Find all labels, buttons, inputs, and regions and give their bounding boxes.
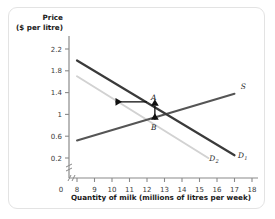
curve-label-D1: D1 bbox=[237, 151, 248, 161]
y-axis-title-line1: Price bbox=[43, 13, 64, 22]
curve-D2[interactable] bbox=[77, 76, 208, 158]
curve-label-D2: D2 bbox=[208, 154, 219, 164]
x-axis-title: Quantity of milk (millions of litres per… bbox=[71, 193, 251, 202]
y-axis-title-line2: ($ per litre) bbox=[16, 23, 63, 32]
curve-label-sub-D1: 1 bbox=[244, 155, 247, 161]
point-B: B bbox=[150, 123, 157, 132]
curve-label-sub-D2: 2 bbox=[214, 158, 218, 164]
x-origin-label: 0 bbox=[59, 186, 63, 194]
y-tick-label-0.6: 0.6 bbox=[51, 133, 63, 141]
y-tick-label-1.4: 1.4 bbox=[51, 89, 63, 97]
point-A: A bbox=[150, 93, 157, 102]
figure-root: 0.20.611.41.82.2891011121314151617180Pri… bbox=[0, 0, 275, 219]
curve-D1[interactable] bbox=[77, 60, 235, 155]
y-tick-label-0.2: 0.2 bbox=[51, 155, 62, 163]
supply-demand-chart: 0.20.611.41.82.2891011121314151617180Pri… bbox=[9, 8, 266, 210]
y-tick-label-1: 1 bbox=[58, 111, 62, 119]
y-tick-label-2.2: 2.2 bbox=[51, 46, 62, 54]
chart-panel: 0.20.611.41.82.2891011121314151617180Pri… bbox=[8, 7, 265, 209]
curve-label-S: S bbox=[241, 82, 246, 91]
y-tick-label-1.8: 1.8 bbox=[51, 67, 62, 75]
